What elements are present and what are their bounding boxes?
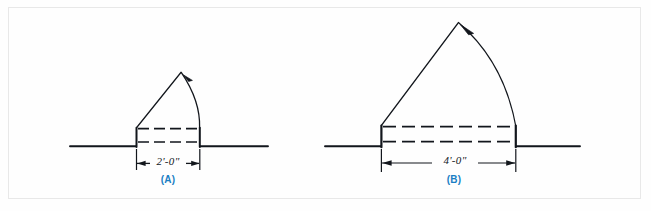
figure-a-caption: (A) <box>150 174 186 185</box>
dimension-arrow-left-icon <box>137 161 145 166</box>
dimension-arrow-left-icon <box>382 160 391 165</box>
figure-b-swing-arc <box>459 23 516 125</box>
figure-a-door-leaf <box>137 72 181 127</box>
figure-a-dimension-label: 2'-0" <box>150 155 186 167</box>
figure-b-caption: (B) <box>436 174 472 185</box>
dimension-arrow-right-icon <box>506 160 515 165</box>
drawing-plate: 2'-0" 4'-0" (A) (B) <box>0 0 651 211</box>
door-swing-diagram <box>0 0 651 211</box>
figure-b-door-leaf <box>382 23 459 126</box>
dimension-arrow-right-icon <box>191 161 199 166</box>
figure-b-group <box>325 23 580 172</box>
arrowhead-icon <box>460 25 473 35</box>
figure-b-dimension-label: 4'-0" <box>435 154 475 166</box>
